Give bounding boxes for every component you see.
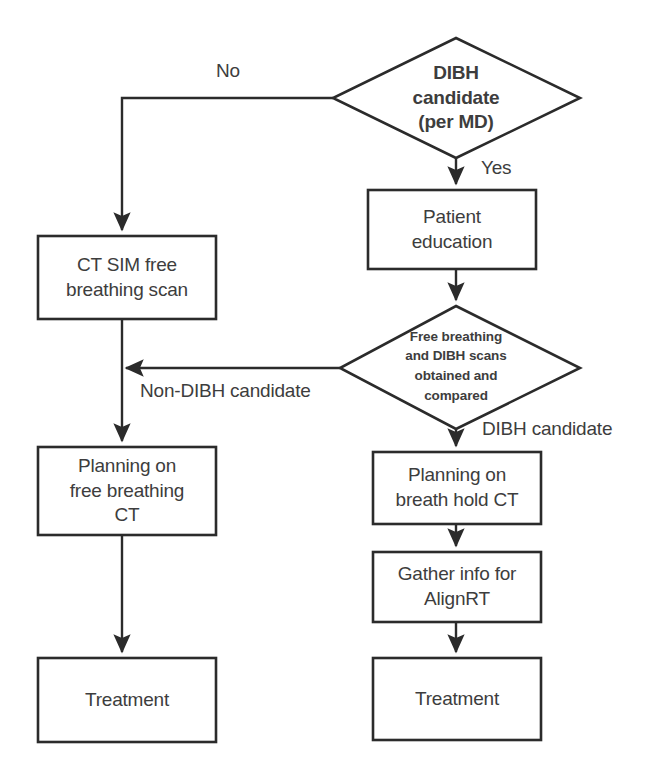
flowchart-graphics (0, 0, 671, 780)
connector-no-branch (122, 98, 333, 230)
shape-scans-obtained-compared-decision (340, 306, 580, 429)
flowchart-canvas: DIBH candidate (per MD) CT SIM free brea… (0, 0, 671, 780)
shape-ct-sim-free-breathing-scan (38, 236, 216, 319)
edge-label-no: No (216, 60, 240, 82)
edge-label-dibh-candidate: DIBH candidate (482, 418, 612, 440)
edge-label-non-dibh-candidate: Non-DIBH candidate (140, 380, 311, 402)
shape-planning-free-breathing-ct (38, 447, 216, 535)
edge-label-yes: Yes (481, 157, 511, 179)
shape-treatment-breath-hold (373, 658, 541, 740)
shape-planning-breath-hold-ct (373, 452, 541, 524)
shape-treatment-free-breathing (38, 658, 216, 742)
shape-patient-education (368, 190, 536, 269)
shape-gather-info-alignrt (373, 552, 541, 622)
shape-dibh-candidate-decision (333, 38, 580, 158)
